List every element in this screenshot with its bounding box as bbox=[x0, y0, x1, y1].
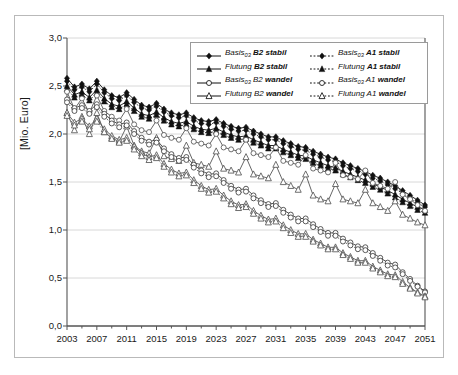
data-point-marker bbox=[79, 96, 84, 101]
legend-item[interactable]: Basis03 B2 stabil bbox=[196, 47, 293, 61]
data-point-marker bbox=[303, 219, 308, 224]
y-axis-title: [Mio. Euro] bbox=[18, 50, 30, 150]
data-point-marker bbox=[191, 165, 196, 170]
data-point-marker bbox=[318, 168, 323, 173]
data-point-marker bbox=[326, 233, 331, 238]
data-point-marker bbox=[139, 128, 144, 133]
data-point-marker bbox=[370, 253, 375, 258]
data-point-marker bbox=[363, 248, 368, 253]
data-point-marker bbox=[169, 135, 174, 140]
legend-item[interactable]: Basis03 A1 stabil bbox=[309, 47, 406, 61]
data-point-marker bbox=[243, 154, 249, 160]
data-point-marker bbox=[65, 89, 70, 94]
data-point-marker bbox=[206, 175, 211, 180]
data-point-marker bbox=[244, 137, 249, 142]
data-point-marker bbox=[310, 192, 316, 198]
legend-item[interactable]: Flutung B2 stabil bbox=[196, 61, 293, 75]
data-point-marker bbox=[378, 183, 383, 188]
legend-item-label: Flutung B2 stabil bbox=[225, 61, 287, 73]
legend-item[interactable]: Basis03 B2 wandel bbox=[196, 74, 293, 88]
data-point-marker bbox=[221, 165, 227, 171]
legend-item-label: Basis03 B2 stabil bbox=[225, 47, 286, 61]
data-point-marker bbox=[214, 132, 219, 137]
y-tick-label: 0,0 bbox=[30, 320, 62, 331]
data-point-marker bbox=[408, 197, 413, 202]
legend-marker-sample bbox=[196, 61, 222, 73]
data-point-marker bbox=[251, 151, 256, 156]
data-point-marker bbox=[124, 107, 129, 112]
data-point-marker bbox=[320, 80, 325, 85]
legend-marker-sample bbox=[196, 48, 222, 60]
data-point-marker bbox=[273, 145, 278, 150]
legend-item[interactable]: Basis03 A1 wandel bbox=[309, 74, 406, 88]
data-point-marker bbox=[221, 145, 226, 150]
data-point-marker bbox=[415, 219, 421, 225]
legend-item[interactable]: Flutung B2 wandel bbox=[196, 88, 293, 102]
data-point-marker bbox=[400, 211, 406, 217]
legend-marker-sample bbox=[309, 88, 335, 100]
data-point-marker bbox=[65, 100, 70, 105]
data-point-marker bbox=[363, 168, 368, 173]
data-point-marker bbox=[87, 111, 92, 116]
data-point-marker bbox=[340, 173, 345, 178]
data-point-marker bbox=[206, 53, 211, 59]
legend-item-label: Flutung A1 wandel bbox=[338, 88, 406, 100]
data-point-marker bbox=[296, 162, 301, 167]
data-point-marker bbox=[281, 158, 286, 163]
data-point-marker bbox=[117, 125, 122, 130]
data-point-marker bbox=[161, 132, 166, 137]
data-point-marker bbox=[161, 149, 166, 154]
data-point-marker bbox=[348, 243, 353, 248]
y-tick-label: 1,0 bbox=[30, 224, 62, 235]
data-point-marker bbox=[319, 93, 325, 99]
data-point-marker bbox=[147, 130, 152, 135]
data-point-marker bbox=[273, 161, 279, 167]
data-point-marker bbox=[184, 126, 189, 131]
legend-item-label: Flutung A1 stabil bbox=[338, 61, 400, 73]
data-point-marker bbox=[333, 181, 339, 187]
data-point-marker bbox=[250, 171, 256, 177]
legend-marker-sample bbox=[309, 61, 335, 73]
data-point-marker bbox=[266, 155, 271, 160]
data-point-marker bbox=[206, 143, 211, 148]
data-point-marker bbox=[251, 196, 256, 201]
data-point-marker bbox=[229, 147, 234, 152]
data-point-marker bbox=[132, 132, 137, 137]
data-point-marker bbox=[214, 174, 219, 179]
y-tick-label: 1,5 bbox=[30, 176, 62, 187]
data-point-marker bbox=[333, 160, 338, 165]
data-point-marker bbox=[139, 138, 144, 143]
legend-marker-sample bbox=[196, 88, 222, 100]
data-point-marker bbox=[340, 239, 345, 244]
data-point-marker bbox=[147, 142, 152, 147]
data-point-marker bbox=[377, 204, 383, 210]
data-point-marker bbox=[176, 158, 181, 163]
legend-item[interactable]: Flutung A1 wandel bbox=[309, 88, 406, 102]
data-point-marker bbox=[393, 180, 398, 185]
data-point-marker bbox=[355, 247, 360, 252]
legend-marker-sample bbox=[309, 75, 335, 87]
chart-legend: Basis03 B2 stabilFlutung B2 stabilBasis0… bbox=[190, 42, 428, 104]
data-point-marker bbox=[303, 171, 309, 177]
figure-chart: [Mio. Euro] 0,00,51,01,52,02,53,0 200320… bbox=[0, 0, 458, 375]
data-point-marker bbox=[355, 177, 360, 182]
data-point-marker bbox=[340, 196, 346, 202]
legend-item[interactable]: Flutung A1 stabil bbox=[309, 61, 406, 75]
data-point-marker bbox=[311, 225, 316, 230]
data-point-marker bbox=[132, 122, 137, 127]
data-point-marker bbox=[288, 160, 293, 165]
data-point-marker bbox=[184, 157, 189, 162]
y-tick-label: 3,0 bbox=[30, 32, 62, 43]
data-point-marker bbox=[319, 53, 324, 59]
data-point-marker bbox=[273, 204, 278, 209]
data-point-marker bbox=[236, 190, 241, 195]
data-point-marker bbox=[400, 272, 405, 277]
data-point-marker bbox=[266, 204, 271, 209]
data-point-marker bbox=[199, 141, 204, 146]
legend-item-label: Basis03 A1 wandel bbox=[338, 74, 405, 88]
data-point-marker bbox=[72, 108, 77, 113]
data-point-marker bbox=[393, 265, 398, 270]
data-point-marker bbox=[221, 180, 226, 185]
data-point-marker bbox=[385, 263, 390, 268]
data-point-marker bbox=[362, 186, 368, 192]
